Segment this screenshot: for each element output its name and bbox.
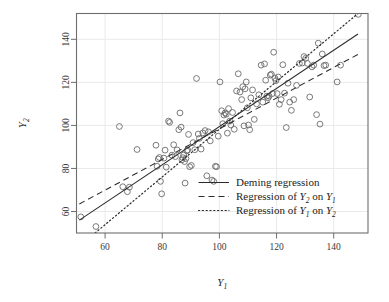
data-point: [250, 87, 256, 93]
plot-canvas: 60801001201406080100120140Y1Y2Deming reg…: [0, 0, 389, 302]
y-tick-label: 60: [61, 206, 71, 216]
data-point: [153, 142, 159, 148]
data-point: [234, 88, 240, 94]
data-point: [120, 184, 126, 190]
data-point: [182, 180, 188, 186]
data-point: [177, 110, 183, 116]
data-point: [307, 94, 313, 100]
data-point: [280, 62, 286, 68]
data-point: [198, 146, 204, 152]
x-axis-title: Y1: [217, 276, 227, 291]
y-tick-label: 100: [61, 118, 71, 133]
y-axis-title: Y2: [16, 118, 31, 128]
data-point: [194, 76, 200, 82]
legend-label-1: Regression of Y2 on Y1: [236, 190, 336, 205]
legend-label-2: Regression of Y1 on Y2: [236, 204, 336, 219]
data-point: [258, 62, 264, 68]
data-point: [230, 110, 236, 116]
x-tick-label: 60: [100, 242, 110, 252]
data-point: [207, 138, 213, 144]
y-tick-label: 120: [61, 75, 71, 90]
data-point: [167, 119, 173, 125]
x-tick-label: 120: [269, 242, 284, 252]
data-point: [186, 132, 192, 138]
data-point: [93, 224, 99, 230]
data-point: [163, 164, 169, 170]
x-axis-title-text: Y1: [217, 276, 227, 291]
data-point: [204, 173, 210, 179]
y-axis-title-text: Y2: [16, 118, 31, 128]
data-point: [289, 107, 295, 113]
x-tick-label: 140: [327, 242, 342, 252]
data-point: [355, 11, 361, 17]
data-point: [317, 121, 323, 127]
data-point: [251, 116, 257, 122]
data-point: [239, 97, 245, 103]
data-point: [294, 82, 300, 88]
data-point: [134, 147, 140, 153]
data-point: [211, 178, 217, 184]
y-tick-label: 80: [61, 163, 71, 173]
data-point: [271, 49, 277, 55]
data-point: [162, 147, 168, 153]
data-point: [248, 95, 254, 101]
data-point: [215, 133, 221, 139]
data-point: [159, 191, 165, 197]
y-tick-label: 140: [61, 32, 71, 47]
legend-label-0: Deming regression: [236, 176, 320, 188]
x-tick-label: 80: [157, 242, 167, 252]
scatter-plot-figure: 60801001201406080100120140Y1Y2Deming reg…: [0, 0, 389, 302]
data-point: [235, 71, 241, 77]
data-point: [231, 126, 237, 132]
axes: 60801001201406080100120140: [61, 32, 341, 252]
data-point: [116, 124, 122, 130]
data-point: [171, 142, 177, 148]
data-point: [188, 163, 194, 169]
data-point: [314, 112, 320, 118]
data-point: [224, 130, 230, 136]
data-point: [262, 61, 268, 67]
x-tick-label: 100: [212, 242, 227, 252]
